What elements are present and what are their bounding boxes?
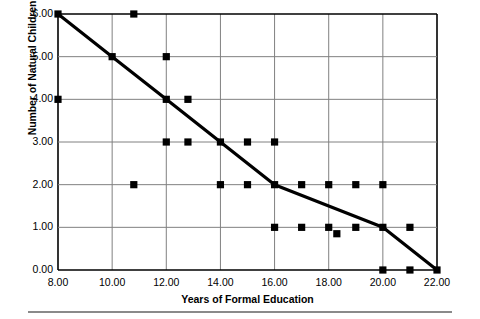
data-point-marker (130, 10, 137, 17)
x-axis-tick-label: 10.00 (89, 276, 135, 288)
y-axis-tick-label: 3.00 (13, 135, 53, 147)
data-point-marker (244, 181, 251, 188)
data-point-marker (217, 138, 224, 145)
data-point-marker (298, 181, 305, 188)
data-point-marker (333, 230, 340, 237)
data-point-marker (109, 53, 116, 60)
data-point-marker (433, 266, 440, 273)
data-point-marker (163, 53, 170, 60)
data-point-marker (298, 224, 305, 231)
plot-area (0, 0, 480, 319)
data-point-marker (163, 96, 170, 103)
x-axis-tick-label: 18.00 (306, 276, 352, 288)
data-point-marker (379, 224, 386, 231)
x-axis-tick-label: 22.00 (414, 276, 460, 288)
data-point-marker (379, 181, 386, 188)
x-axis-title: Years of Formal Education (58, 293, 437, 305)
data-point-marker (379, 266, 386, 273)
data-point-marker (130, 181, 137, 188)
x-axis-tick-label: 20.00 (360, 276, 406, 288)
x-axis-tick-label: 12.00 (143, 276, 189, 288)
y-axis-title: Number of Natural Children (26, 0, 42, 156)
data-point-marker (406, 266, 413, 273)
data-point-marker (325, 224, 332, 231)
data-point-marker (352, 181, 359, 188)
y-axis-tick-label: 2.00 (13, 178, 53, 190)
y-axis-tick-label: 1.00 (13, 220, 53, 232)
data-point-marker (184, 138, 191, 145)
data-point-marker (54, 96, 61, 103)
data-point-marker (244, 138, 251, 145)
x-axis-tick-label: 14.00 (197, 276, 243, 288)
chart-container: Number of Natural Children Years of Form… (0, 0, 480, 319)
data-point-marker (163, 138, 170, 145)
data-point-marker (271, 181, 278, 188)
data-point-marker (271, 224, 278, 231)
data-point-marker (184, 96, 191, 103)
y-axis-tick-label: 6.00 (13, 7, 53, 19)
x-axis-tick-label: 8.00 (35, 276, 81, 288)
data-point-marker (352, 224, 359, 231)
data-point-marker (406, 224, 413, 231)
y-axis-tick-label: 0.00 (13, 263, 53, 275)
data-point-marker (217, 181, 224, 188)
y-axis-tick-label: 5.00 (13, 50, 53, 62)
y-axis-tick-label: 4.00 (13, 92, 53, 104)
data-point-marker (325, 181, 332, 188)
data-point-marker (271, 138, 278, 145)
footer-divider (28, 311, 452, 313)
data-point-marker (54, 10, 61, 17)
x-axis-tick-label: 16.00 (252, 276, 298, 288)
